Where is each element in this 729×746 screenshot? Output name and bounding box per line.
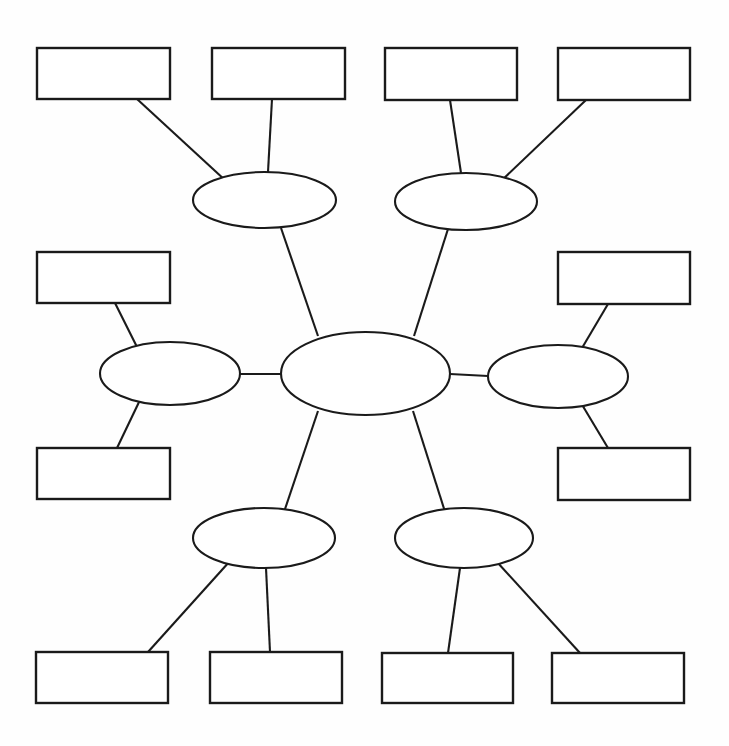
center-node-layer [281, 332, 450, 415]
concept-box[interactable] [558, 448, 690, 500]
satellite-ellipse-outline[interactable] [193, 172, 336, 228]
diagram-canvas [0, 0, 729, 746]
connector-line [137, 99, 226, 181]
connector-line [148, 561, 230, 652]
center-ellipse[interactable] [281, 332, 450, 415]
concept-map-svg [0, 0, 729, 746]
satellite-ellipse[interactable] [193, 172, 336, 228]
connector-line [117, 400, 140, 448]
connector-line [413, 411, 447, 518]
concept-box-outline[interactable] [385, 48, 517, 100]
center-ellipse-outline[interactable] [281, 332, 450, 415]
concept-box-outline[interactable] [382, 653, 513, 703]
connector-line [268, 99, 272, 172]
satellite-ellipse-outline[interactable] [488, 345, 628, 408]
concept-box[interactable] [37, 48, 170, 99]
connector-line [500, 100, 586, 182]
concept-box-outline[interactable] [558, 48, 690, 100]
satellite-ellipse-outline[interactable] [395, 508, 533, 568]
satellite-ellipse[interactable] [100, 342, 240, 405]
connector-line [414, 229, 448, 336]
satellite-ellipse[interactable] [395, 508, 533, 568]
concept-box[interactable] [385, 48, 517, 100]
concept-box-outline[interactable] [558, 252, 690, 304]
concept-box-outline[interactable] [37, 252, 170, 303]
concept-box[interactable] [382, 653, 513, 703]
concept-box-outline[interactable] [36, 652, 168, 703]
satellite-ellipse-outline[interactable] [193, 508, 335, 568]
concept-box[interactable] [37, 448, 170, 499]
concept-box-outline[interactable] [552, 653, 684, 703]
concept-box-outline[interactable] [212, 48, 345, 99]
concept-box[interactable] [558, 48, 690, 100]
concept-box[interactable] [210, 652, 342, 703]
connector-line [281, 228, 318, 336]
connector-line [450, 374, 488, 376]
concept-box[interactable] [558, 252, 690, 304]
concept-box-outline[interactable] [558, 448, 690, 500]
concept-box[interactable] [552, 653, 684, 703]
concept-box[interactable] [36, 652, 168, 703]
satellite-ellipse[interactable] [395, 173, 537, 230]
concept-box-outline[interactable] [210, 652, 342, 703]
concept-box-outline[interactable] [37, 48, 170, 99]
satellite-ellipse-outline[interactable] [395, 173, 537, 230]
satellite-ellipse[interactable] [193, 508, 335, 568]
connector-line [450, 100, 461, 173]
satellite-ellipse-outline[interactable] [100, 342, 240, 405]
concept-box-outline[interactable] [37, 448, 170, 499]
connector-line [582, 304, 608, 348]
connector-line [448, 568, 460, 653]
connector-line [266, 568, 270, 652]
connector-line [115, 303, 138, 349]
connector-line [581, 403, 608, 448]
concept-box[interactable] [37, 252, 170, 303]
connector-line [282, 411, 318, 518]
connector-line [497, 562, 580, 653]
concept-box[interactable] [212, 48, 345, 99]
satellite-ellipse[interactable] [488, 345, 628, 408]
